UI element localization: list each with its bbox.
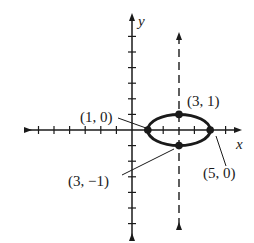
y-axis-label: y: [136, 13, 145, 29]
label-1-0: (1, 0): [80, 109, 113, 126]
label-3-neg1: (3, −1): [68, 173, 109, 190]
label-5-0: (5, 0): [203, 165, 236, 182]
point-3-1: [175, 111, 183, 119]
point-5-0: [206, 126, 214, 134]
x-axis-label: x: [235, 136, 243, 152]
coordinate-diagram: y x (1, 0) (3, 1) (5, 0) (3, −1): [0, 0, 254, 243]
point-3-neg1: [175, 142, 183, 150]
label-3-1: (3, 1): [187, 93, 220, 110]
